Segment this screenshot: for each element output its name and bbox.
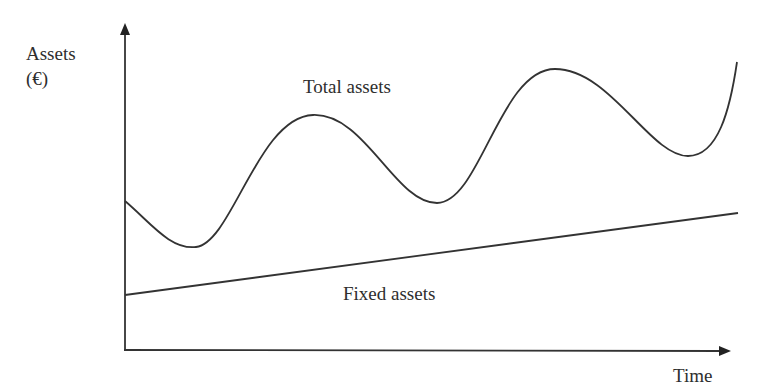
x-axis-arrow-icon (719, 346, 731, 356)
y-axis-label-line2: (€) (26, 68, 76, 91)
y-axis-label: Assets (€) (26, 43, 76, 91)
x-axis-label: Time (673, 365, 712, 388)
fixed-assets-label: Fixed assets (343, 283, 435, 306)
y-axis-arrow-icon (120, 23, 130, 35)
total-assets-line (125, 62, 737, 247)
x-axis (124, 350, 721, 351)
total-assets-label: Total assets (303, 76, 391, 99)
assets-chart (0, 0, 763, 392)
y-axis-label-line1: Assets (26, 43, 76, 66)
